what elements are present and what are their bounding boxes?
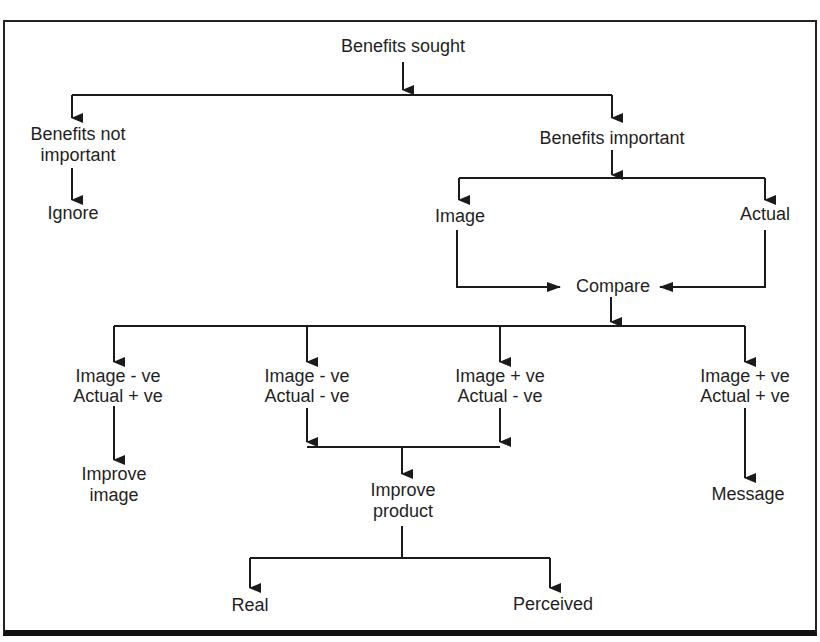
- node-image: Image: [435, 206, 485, 227]
- node-benefits-important: Benefits important: [539, 128, 684, 149]
- node-case3-line1: Image + ve: [455, 366, 545, 387]
- node-benefits-sought: Benefits sought: [341, 36, 465, 57]
- node-benefits-not-important-line2: important: [40, 145, 115, 166]
- node-actual: Actual: [740, 204, 790, 225]
- node-case3-line2: Actual - ve: [457, 386, 542, 407]
- node-improve-image-line1: Improve: [81, 464, 146, 485]
- node-real: Real: [231, 595, 268, 616]
- node-case4-line2: Actual + ve: [700, 386, 790, 407]
- node-case4-line1: Image + ve: [700, 366, 790, 387]
- node-ignore: Ignore: [47, 203, 98, 224]
- node-perceived: Perceived: [513, 594, 593, 615]
- node-improve-image-line2: image: [89, 485, 138, 506]
- node-message: Message: [711, 484, 784, 505]
- node-case1-line2: Actual + ve: [73, 386, 163, 407]
- node-case2-line1: Image - ve: [264, 366, 349, 387]
- node-benefits-not-important-line1: Benefits not: [30, 124, 125, 145]
- node-improve-product-line1: Improve: [370, 480, 435, 501]
- node-case1-line1: Image - ve: [75, 366, 160, 387]
- connector-lines: [0, 0, 820, 642]
- node-case2-line2: Actual - ve: [264, 386, 349, 407]
- node-compare: Compare: [576, 276, 650, 297]
- node-improve-product-line2: product: [373, 501, 433, 522]
